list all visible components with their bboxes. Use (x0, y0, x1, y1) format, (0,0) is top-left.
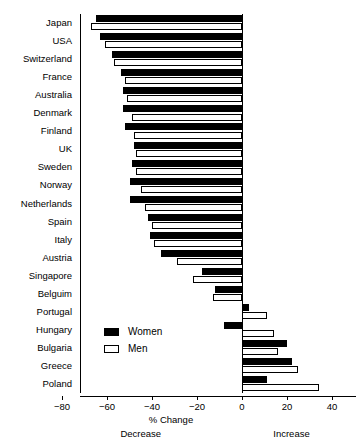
bar-women (123, 87, 242, 94)
x-tick (197, 396, 198, 400)
category-label: Poland (42, 379, 72, 389)
bar-men (136, 150, 242, 157)
axis-annotation: Decrease (120, 428, 161, 439)
bar-women (125, 123, 242, 130)
bar-men (213, 294, 242, 301)
category-label: Netherlands (21, 199, 72, 209)
category-label: France (42, 72, 72, 82)
bar-men (154, 240, 242, 247)
category-label: Italy (55, 235, 72, 245)
bar-women (242, 304, 249, 311)
x-tick-label: 0 (239, 401, 244, 412)
bar-women (121, 69, 243, 76)
bar-men (193, 276, 243, 283)
bar-men (134, 132, 242, 139)
category-label: Switzerland (23, 54, 72, 64)
legend-swatch-women-icon (104, 328, 119, 336)
category-label: Austria (42, 253, 72, 263)
bar-women (215, 286, 242, 293)
category-label: Norway (40, 180, 72, 190)
bar-women (224, 322, 242, 329)
bar-men (242, 384, 319, 391)
x-axis-title: % Change (0, 414, 342, 425)
bar-women (161, 250, 242, 257)
bar-men (242, 330, 274, 337)
x-tick (107, 396, 108, 400)
bar-men (242, 348, 278, 355)
bar-men (242, 312, 267, 319)
legend-label-men: Men (128, 342, 147, 356)
category-label: Greece (41, 361, 72, 371)
bar-women (123, 105, 242, 112)
category-label: Hungary (36, 325, 72, 335)
x-tick-label: −20 (189, 401, 205, 412)
bar-men (152, 222, 242, 229)
x-tick (332, 396, 333, 400)
bar-men (141, 186, 242, 193)
bar-women (242, 340, 287, 347)
bar-women (96, 15, 242, 22)
plot-area (80, 14, 342, 393)
category-axis-labels: JapanUSASwitzerlandFranceAustraliaDenmar… (0, 14, 76, 393)
category-label: USA (52, 36, 72, 46)
x-tick-label: −40 (144, 401, 160, 412)
bar-women (148, 214, 243, 221)
category-label: Australia (35, 90, 72, 100)
bar-women (112, 51, 243, 58)
category-label: Singapore (29, 271, 72, 281)
x-tick-label: −80 (54, 401, 70, 412)
x-axis-line (80, 396, 356, 397)
x-tick (62, 396, 63, 400)
category-label: Japan (46, 18, 72, 28)
category-label: Belguim (38, 289, 72, 299)
bar-men (91, 23, 242, 30)
x-tick (152, 396, 153, 400)
bar-women (242, 376, 267, 383)
bar-men (136, 168, 242, 175)
category-label: UK (59, 144, 72, 154)
bar-men (145, 204, 242, 211)
category-label: Sweden (38, 162, 72, 172)
bar-women (242, 358, 292, 365)
bar-men (114, 59, 242, 66)
bar-women (100, 33, 242, 40)
x-tick-label: 20 (282, 401, 293, 412)
x-tick-label: −60 (99, 401, 115, 412)
bar-men (132, 114, 242, 121)
bar-men (127, 95, 242, 102)
category-label: Spain (48, 217, 72, 227)
bar-women (202, 268, 243, 275)
category-label: Finland (41, 126, 72, 136)
legend-swatch-men-icon (104, 345, 119, 353)
axis-annotation: Increase (273, 428, 309, 439)
bar-men (177, 258, 242, 265)
bar-women (132, 160, 242, 167)
bar-men (125, 77, 242, 84)
bar-women (134, 142, 242, 149)
x-tick-label: 40 (327, 401, 338, 412)
bar-women (150, 232, 242, 239)
bar-women (130, 196, 243, 203)
legend-label-women: Women (128, 325, 162, 339)
x-tick (287, 396, 288, 400)
bar-men (242, 366, 298, 373)
category-label: Denmark (33, 108, 72, 118)
category-label: Bulgaria (37, 343, 72, 353)
bar-women (130, 178, 243, 185)
category-label: Portugal (37, 307, 72, 317)
bar-men (105, 41, 242, 48)
x-tick (242, 396, 243, 400)
plot-left-spine (80, 14, 81, 393)
